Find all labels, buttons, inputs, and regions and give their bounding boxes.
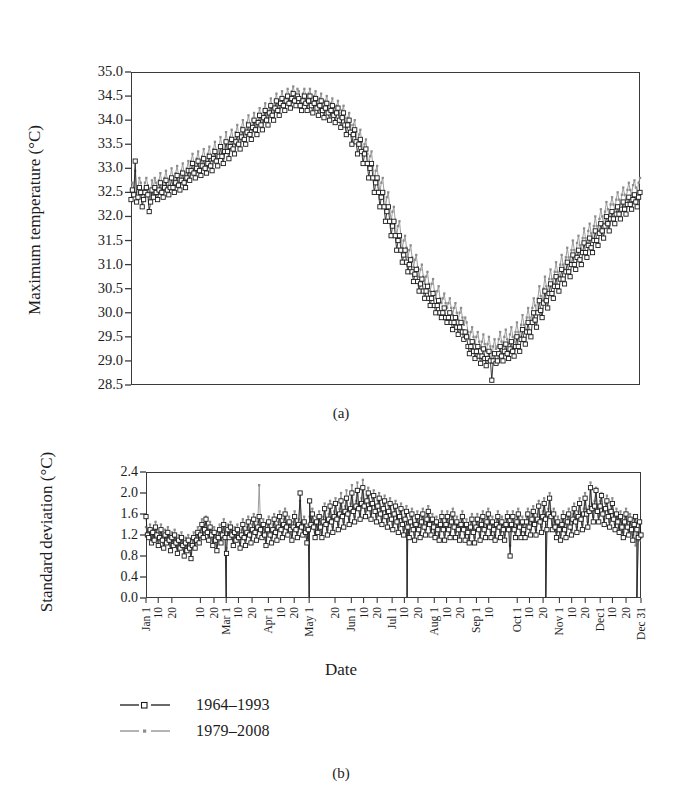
x-tick-label: 20 xyxy=(246,607,258,619)
legend-label: 1964–1993 xyxy=(196,696,270,714)
x-tick-label: Jul 1 xyxy=(386,607,398,629)
legend-label: 1979–2008 xyxy=(196,722,270,740)
x-tick-label: May 1 xyxy=(303,607,315,637)
legend-item: 1964–1993 xyxy=(118,692,398,718)
x-tick-label: Oct 1 xyxy=(511,607,523,632)
x-tick-label: 20 xyxy=(454,607,466,619)
x-tick-label: 20 xyxy=(208,607,220,619)
x-tick-label: 10 xyxy=(194,607,206,619)
x-tick-label: 20 xyxy=(371,607,383,619)
x-tick-label: 10 xyxy=(483,607,495,619)
series-2 xyxy=(144,486,643,598)
x-tick-label: Jan 1 xyxy=(140,607,152,631)
x-tick-label: Apr 1 xyxy=(262,607,274,634)
x-tick-label: Nov 1 xyxy=(553,607,565,635)
x-tick-label: 10 xyxy=(152,607,164,619)
legend-marker-icon xyxy=(118,698,174,712)
panel-b-caption: (b) xyxy=(0,765,682,782)
x-tick-label: 20 xyxy=(288,607,300,619)
x-tick-label: 10 xyxy=(358,607,370,619)
panel-b-data-plot xyxy=(0,0,682,802)
x-tick-label: Sep 1 xyxy=(470,607,482,633)
legend: 1964–19931979–2008 xyxy=(118,692,398,744)
x-tick-label: 10 xyxy=(398,607,410,619)
x-tick-label: 20 xyxy=(537,607,549,619)
x-tick-label: Dec1 xyxy=(594,607,606,631)
x-tick-label: Jun 1 xyxy=(345,607,357,632)
x-tick-label: 20 xyxy=(620,607,632,619)
x-tick-label: 10 xyxy=(523,607,535,619)
x-tick-label: 10 xyxy=(275,607,287,619)
x-tick-label: 10 xyxy=(232,607,244,619)
x-tick-label: 20 xyxy=(329,607,341,619)
legend-item: 1979–2008 xyxy=(118,718,398,744)
x-tick-label: 10 xyxy=(606,607,618,619)
x-tick-label: 20 xyxy=(579,607,591,619)
x-tick-label: 20 xyxy=(412,607,424,619)
figure-container: Maximum temperature (°C) 35.034.534.033.… xyxy=(0,0,682,802)
x-tick-label: 10 xyxy=(441,607,453,619)
x-tick-label: Aug 1 xyxy=(428,607,440,635)
x-tick-label: Mar 1 xyxy=(220,607,232,635)
x-axis-title: Date xyxy=(0,660,682,680)
x-tick-label: Dec 31 xyxy=(635,607,647,640)
x-tick-label: 20 xyxy=(166,607,178,619)
x-tick-label: 10 xyxy=(566,607,578,619)
legend-marker-icon xyxy=(118,724,174,738)
